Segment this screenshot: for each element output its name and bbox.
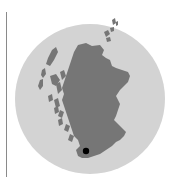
- map-svg: [0, 0, 176, 180]
- location-marker-dot: [83, 148, 89, 154]
- locator-map: [0, 0, 176, 180]
- shetland-islands: [112, 18, 118, 26]
